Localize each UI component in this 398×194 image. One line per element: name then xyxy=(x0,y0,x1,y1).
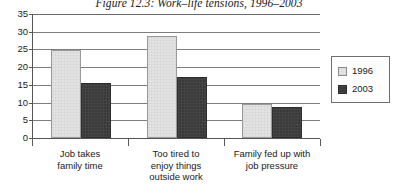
y-tick-label: 0 xyxy=(23,133,28,143)
legend-item-2003[interactable]: 2003 xyxy=(338,80,389,98)
y-tick-label: 30 xyxy=(17,27,28,37)
bar-2003-1[interactable] xyxy=(81,83,111,138)
y-tick-label: 25 xyxy=(17,45,28,55)
bar-group xyxy=(224,14,320,138)
legend-item-1996[interactable]: 1996 xyxy=(338,62,389,80)
bar-2003-3[interactable] xyxy=(272,107,302,138)
y-tick-label: 10 xyxy=(17,98,28,108)
x-axis-separator xyxy=(128,139,129,146)
x-axis-labels: Job takesfamily timeToo tired toenjoy th… xyxy=(32,148,320,183)
bar-1996-3[interactable] xyxy=(242,104,272,138)
legend-label: 1996 xyxy=(352,66,373,76)
bar-1996-1[interactable] xyxy=(51,50,81,138)
x-axis-label-line: family time xyxy=(32,160,128,172)
y-tick-label: 15 xyxy=(17,80,28,90)
x-axis-label-line: Job takes xyxy=(32,148,128,160)
bar-group xyxy=(33,14,129,138)
x-axis-label-1: Job takesfamily time xyxy=(32,148,128,183)
plot-wrapper: 05101520253035 xyxy=(32,14,320,139)
x-axis-label-3: Family fed up withjob pressure xyxy=(224,148,320,183)
y-tick-label: 20 xyxy=(17,62,28,72)
bar-group xyxy=(129,14,225,138)
bar-2003-2[interactable] xyxy=(177,77,207,138)
plot-area: 05101520253035 xyxy=(32,14,320,139)
bar-groups xyxy=(33,14,320,138)
x-axis-separator xyxy=(320,139,321,146)
x-axis-separator xyxy=(224,139,225,146)
x-axis-label-line: Too tired to xyxy=(128,148,224,160)
legend-swatch-icon-1996 xyxy=(338,67,347,76)
bar-1996-2[interactable] xyxy=(147,36,177,138)
x-axis-label-line: job pressure xyxy=(224,160,320,172)
y-tick-label: 35 xyxy=(17,9,28,19)
x-axis-label-2: Too tired toenjoy thingsoutside work xyxy=(128,148,224,183)
x-axis-label-line: Family fed up with xyxy=(224,148,320,160)
x-axis-separator xyxy=(32,139,33,146)
legend-label: 2003 xyxy=(352,84,373,94)
x-axis-label-line: outside work xyxy=(128,171,224,183)
legend-swatch-icon-2003 xyxy=(338,85,347,94)
chart-title: Figure 12.3: Work–life tensions, 1996–20… xyxy=(0,0,398,9)
x-axis-label-line: enjoy things xyxy=(128,160,224,172)
legend: 19962003 xyxy=(331,56,390,103)
y-tick-label: 5 xyxy=(23,116,28,126)
x-axis-separators xyxy=(32,139,320,146)
